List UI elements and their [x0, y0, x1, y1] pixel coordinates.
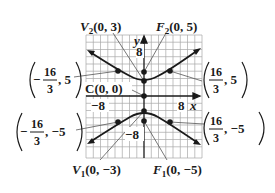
y-axis-arrow-icon: [141, 36, 147, 43]
center-label: C(0, 0): [85, 81, 123, 96]
point-lower-right: [167, 119, 173, 125]
svg-text:3: 3: [34, 134, 40, 148]
point-upper-right: [167, 68, 173, 74]
svg-text:3: 3: [213, 82, 219, 96]
point-f2: [141, 69, 147, 75]
svg-text:3: 3: [47, 82, 53, 96]
v1-label: V1(0, −3): [72, 162, 121, 179]
y-tick-neg-8: −8: [125, 127, 139, 142]
f2-label: F2(0, 5): [155, 19, 197, 36]
svg-text:−: −: [33, 72, 40, 87]
x-tick-8: 8: [178, 98, 185, 113]
label-upper-right: 16 3 , 5: [204, 62, 247, 98]
svg-text:3: 3: [213, 131, 219, 145]
svg-text:, 5: , 5: [58, 72, 72, 87]
point-v2: [141, 78, 147, 84]
f1-label: F1(0, −5): [152, 162, 202, 179]
point-center: [141, 93, 147, 99]
svg-text:16: 16: [210, 114, 222, 128]
point-lower-left: [115, 119, 121, 125]
point-upper-left: [115, 68, 121, 74]
point-v1: [141, 108, 147, 114]
x-axis-label: x: [189, 98, 197, 113]
svg-text:, −5: , −5: [45, 124, 66, 139]
y-tick-8: 8: [136, 44, 143, 59]
label-lower-left: − 16 3 , −5: [17, 113, 82, 151]
svg-text:16: 16: [210, 65, 222, 79]
hyperbola-diagram: y 8 −8 8 x −8 C(0, 0) V2(0, 3) F2(0, 5) …: [0, 0, 275, 193]
label-upper-left: − 16 3 , 5: [30, 62, 81, 98]
point-f1: [141, 118, 147, 124]
svg-text:16: 16: [31, 117, 43, 131]
svg-text:−: −: [20, 124, 27, 139]
label-lower-right: 16 3 , −5: [204, 112, 264, 145]
svg-text:16: 16: [44, 65, 56, 79]
svg-text:, −5: , −5: [224, 121, 245, 136]
arrow-icon: [193, 48, 201, 55]
v2-label: V2(0, 3): [80, 19, 121, 36]
x-tick-neg-8: −8: [91, 98, 105, 113]
svg-text:, 5: , 5: [224, 72, 238, 87]
